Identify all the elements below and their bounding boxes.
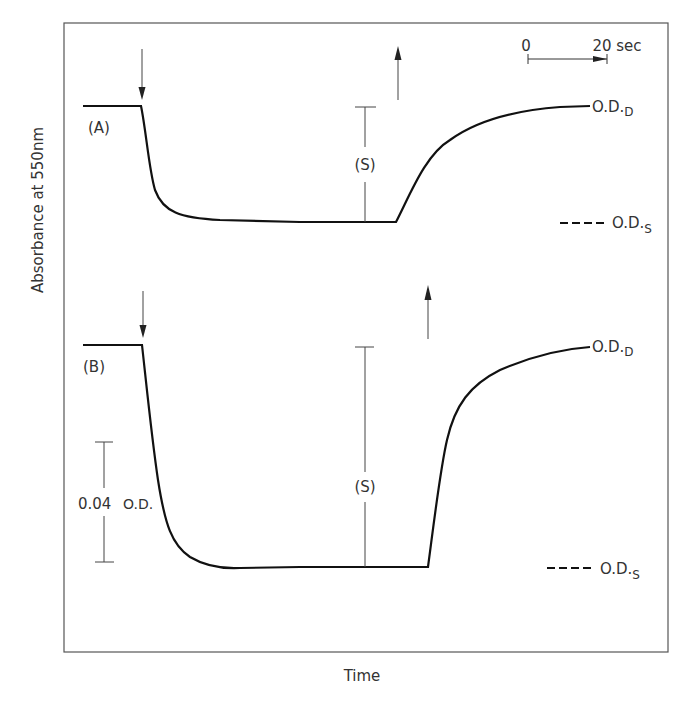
absorbance-chart: 0 20 sec (A) (S) O.D.D O.D.S (0, 0, 697, 710)
s-amplitude-bar-b: (S) (354, 347, 375, 567)
trace-b: (B) (S) O.D.D O.D.S (83, 285, 640, 582)
s-label-b: (S) (354, 478, 375, 496)
arrow-up-icon (425, 285, 432, 339)
arrow-up-icon (395, 46, 402, 100)
od-scale-unit: O.D. (123, 496, 153, 512)
od-d-label-a: O.D.D (592, 98, 634, 119)
trace-a-label: (A) (88, 119, 110, 137)
od-d-label-b: O.D.D (592, 338, 634, 359)
trace-b-line (83, 345, 590, 568)
scale-zero-label: 0 (521, 37, 531, 55)
time-scale-bar: 0 20 sec (521, 37, 641, 64)
s-label-a: (S) (354, 156, 375, 174)
scale-end-label: 20 sec (592, 37, 641, 55)
od-scale-value: 0.04 (78, 495, 111, 513)
arrow-down-icon (140, 291, 147, 338)
od-scale-bar: 0.04 O.D. (78, 442, 153, 562)
y-axis-label: Absorbance at 550nm (29, 127, 47, 293)
arrow-down-icon (139, 49, 146, 100)
arrowhead-icon (593, 56, 607, 62)
x-axis-label: Time (343, 667, 381, 685)
trace-a: (A) (S) O.D.D O.D.S (83, 46, 652, 236)
od-s-label-a: O.D.S (612, 214, 652, 236)
trace-a-line (83, 106, 590, 222)
plot-frame (64, 23, 668, 652)
trace-b-label: (B) (83, 358, 105, 376)
s-amplitude-bar-a: (S) (354, 107, 376, 222)
od-s-label-b: O.D.S (600, 560, 640, 582)
